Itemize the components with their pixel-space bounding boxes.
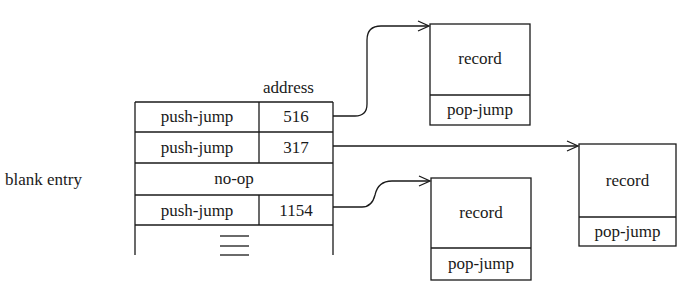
row-2-op: push-jump: [135, 139, 259, 156]
row-3-op: no-op: [135, 170, 333, 187]
record-1-label: record: [430, 50, 530, 67]
blank-entry-label: blank entry: [5, 171, 82, 188]
address-column-header: address: [263, 79, 314, 96]
record-2-label: record: [579, 172, 676, 189]
row-4-address: 1154: [259, 202, 333, 219]
record-3-footer: pop-jump: [431, 255, 531, 272]
row-2-address: 317: [259, 139, 333, 156]
record-3-label: record: [431, 204, 531, 221]
record-1-footer: pop-jump: [430, 101, 530, 118]
record-2-footer: pop-jump: [579, 223, 676, 240]
diagram-lines: [0, 0, 688, 295]
row-1-address: 516: [259, 108, 333, 125]
row-1-op: push-jump: [135, 108, 259, 125]
row-4-op: push-jump: [135, 202, 259, 219]
